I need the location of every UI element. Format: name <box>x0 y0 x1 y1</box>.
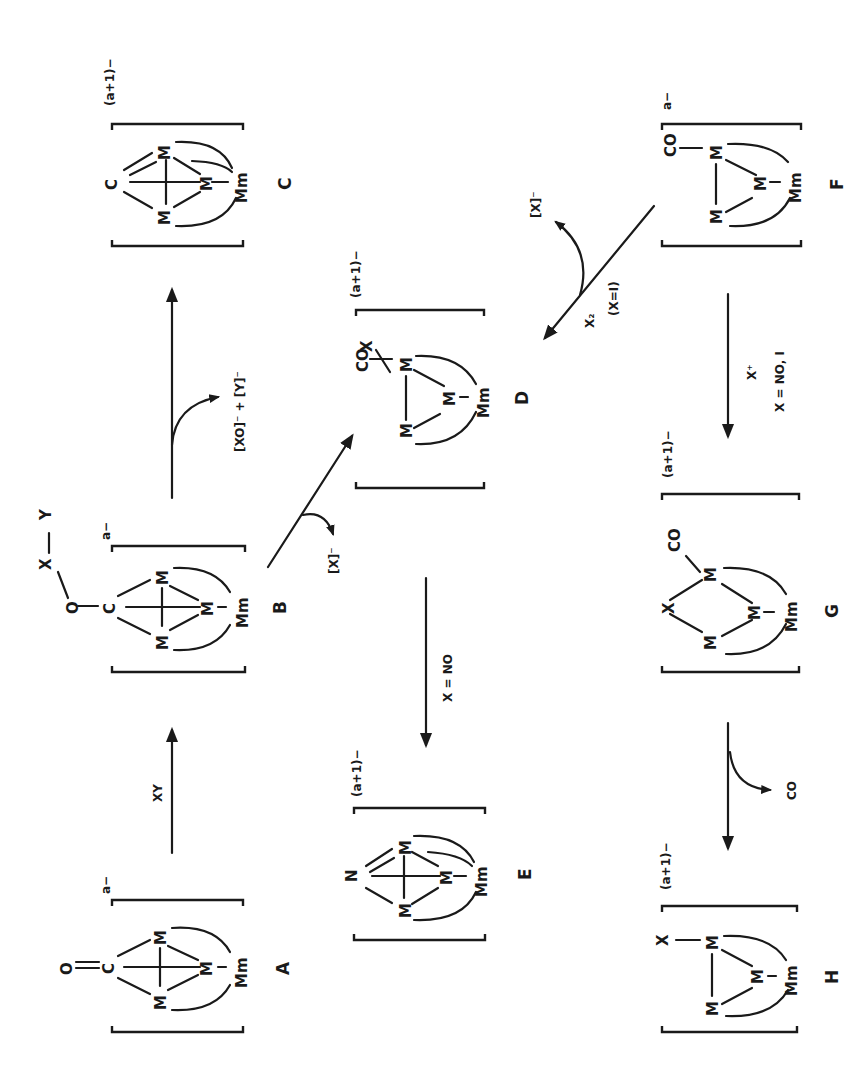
compound-a: a− O C M M M Mm A <box>58 876 293 1032</box>
atom-m: M <box>752 176 770 191</box>
atom-mm: Mm <box>783 601 801 632</box>
charge-label: (a+1)− <box>659 842 673 890</box>
atom-mm: Mm <box>783 965 801 996</box>
atom-m: M <box>702 635 720 650</box>
byproduct-xo-y: [XO]⁻ + [Y]⁻ <box>233 371 247 452</box>
atom-m: M <box>152 995 170 1010</box>
atom-m: M <box>702 567 720 582</box>
compound-label-f: F <box>827 178 847 190</box>
atom-m: M <box>156 210 174 225</box>
arrow-f-to-g: X⁺ X = NO, I <box>728 294 787 436</box>
bracket-bottom <box>112 1026 243 1032</box>
atom-m: M <box>441 391 459 406</box>
atom-m: M <box>397 840 415 855</box>
compound-label-e: E <box>515 868 535 880</box>
compound-h: (a+1)− X M M M Mm H <box>654 842 842 1032</box>
arrow-f-to-d: [X]⁻ X₂ (X=I) <box>529 191 654 338</box>
bracket-top <box>112 900 243 906</box>
compound-f: a− CO M M M Mm F <box>660 92 847 246</box>
condition-x-eq-i: (X=I) <box>607 281 621 316</box>
atom-n: N <box>343 869 361 882</box>
condition-x-eq-no-i: X = NO, I <box>773 351 787 412</box>
compound-label-c: C <box>275 178 295 190</box>
atom-m: M <box>397 903 415 918</box>
atom-y: Y <box>37 508 55 521</box>
reagent-x2: X₂ <box>583 313 597 328</box>
atom-m: M <box>398 357 416 372</box>
atom-m: M <box>398 423 416 438</box>
atom-x: X <box>654 934 672 946</box>
compound-b: a− Y X O C M M M Mm B <box>37 508 290 672</box>
atom-m: M <box>154 570 172 585</box>
charge-label: (a+1)− <box>349 250 363 298</box>
bracket-top <box>112 546 245 552</box>
atom-mm: Mm <box>233 957 251 988</box>
compound-d: (a+1)− CO X M M M Mm D <box>349 250 532 488</box>
atom-c: C <box>100 963 118 974</box>
arrow-d-to-e: X = NO <box>426 578 455 745</box>
atom-o: O <box>58 962 76 975</box>
atom-m: M <box>152 930 170 945</box>
atom-m: M <box>704 1001 722 1016</box>
arrow-b-to-d: [X]⁻ <box>268 436 352 574</box>
compound-g: (a+1)− CO X M M M Mm G <box>660 430 842 672</box>
atom-x: X <box>358 340 376 352</box>
atom-m: M <box>154 635 172 650</box>
compound-label-h: H <box>822 970 842 984</box>
atom-mm: Mm <box>473 866 491 897</box>
atom-x: X <box>37 558 55 570</box>
charge-label: (a+1)− <box>661 430 675 478</box>
atom-m: M <box>704 935 722 950</box>
reagent-xy: XY <box>151 784 165 802</box>
arrow-b-to-c: [XO]⁻ + [Y]⁻ <box>172 290 247 498</box>
charge-label: a− <box>99 876 113 894</box>
atom-m: M <box>749 969 767 984</box>
atom-c: C <box>101 603 119 614</box>
compound-e: (a+1)− N M M M Mm E <box>343 749 535 940</box>
atom-mm: Mm <box>787 172 805 203</box>
compound-label-b: B <box>270 601 290 614</box>
charge-label: (a+1)− <box>350 749 364 797</box>
atom-m: M <box>438 870 456 885</box>
charge-label: (a+1)− <box>103 58 117 106</box>
atom-m: M <box>708 209 726 224</box>
atom-mm: Mm <box>234 597 252 628</box>
atom-co: CO <box>662 133 680 157</box>
atom-co: CO <box>666 528 684 552</box>
atom-m: M <box>198 961 216 976</box>
charge-label: a− <box>660 92 674 110</box>
reagent-x-plus: X⁺ <box>745 364 759 380</box>
atom-m: M <box>746 605 764 620</box>
byproduct-x-minus: [X]⁻ <box>529 191 543 218</box>
atom-m: M <box>199 601 217 616</box>
charge-label: a− <box>99 522 113 540</box>
atom-m: M <box>198 176 216 191</box>
atom-x: X <box>660 602 678 614</box>
compound-label-d: D <box>512 391 532 405</box>
atom-m: M <box>708 145 726 160</box>
reaction-scheme: a− O C M M M Mm A XY a− Y X O C <box>0 0 859 1084</box>
compound-label-g: G <box>822 604 842 618</box>
arrow-a-to-b: XY <box>151 730 172 853</box>
compound-c: (a+1)− C M M M Mm C <box>103 58 295 246</box>
atom-c: C <box>103 179 121 190</box>
atom-mm: Mm <box>475 387 493 418</box>
reagent-x-eq-no: X = NO <box>441 654 455 702</box>
arrow-g-to-h: CO <box>728 723 799 848</box>
atom-mm: Mm <box>233 172 251 203</box>
byproduct-x-minus: [X]⁻ <box>327 547 341 574</box>
compound-label-a: A <box>273 961 293 975</box>
atom-m: M <box>156 145 174 160</box>
byproduct-co: CO <box>785 781 799 800</box>
atom-o: O <box>64 601 82 614</box>
